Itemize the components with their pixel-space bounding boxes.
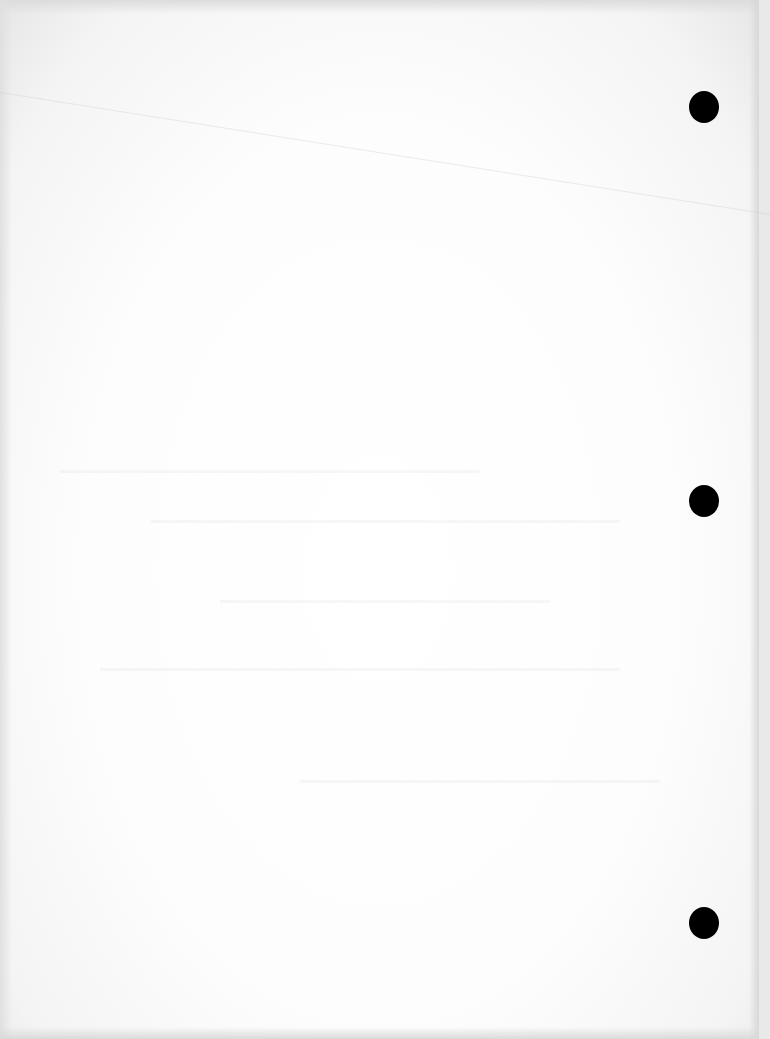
bleed-through-mark [300,780,660,783]
page-right-edge-shadow [749,0,759,1039]
punch-hole-middle [689,485,719,517]
page-top-edge-shadow [0,0,759,14]
bleed-through-mark [150,520,620,523]
bleed-through-mark [100,668,620,671]
bleed-through-mark [60,470,480,473]
punch-hole-top [689,91,719,123]
punch-hole-bottom [689,907,719,939]
paper-crease-line [0,92,770,215]
page-bottom-edge-shadow [0,1027,759,1039]
page-left-edge-shadow [0,0,12,1039]
bleed-through-mark [220,600,550,603]
